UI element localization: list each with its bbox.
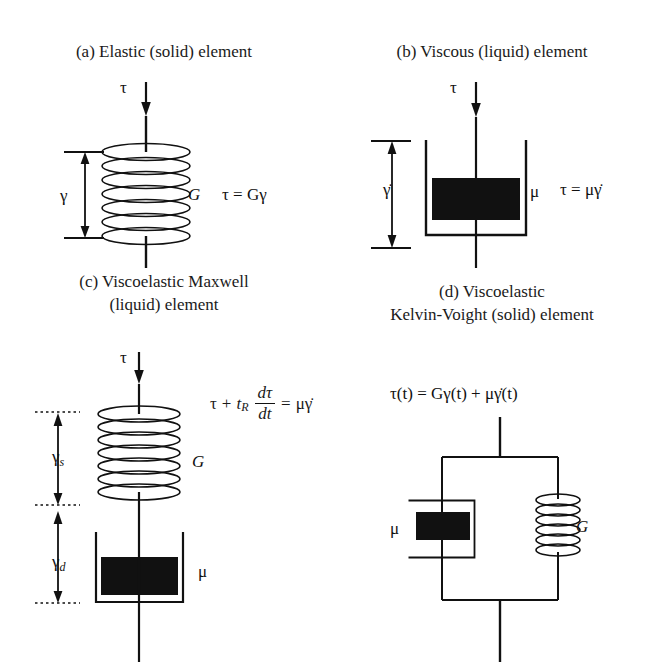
- dashpot-piston: [416, 512, 470, 540]
- stress-arrow-top: [141, 82, 151, 116]
- panel-c-drawing: [0, 262, 328, 668]
- stress-arrow-top: [134, 352, 144, 384]
- strain-rate-dimension-arrow: [371, 141, 411, 248]
- panel-b-drawing: [328, 0, 656, 270]
- strain-dimension-arrow: [64, 152, 104, 238]
- spring-coil: [536, 494, 580, 556]
- panel-d-drawing: [328, 262, 656, 668]
- panel-c-maxwell: (c) Viscoelastic Maxwell (liquid) elemen…: [0, 262, 328, 668]
- rheology-elements-figure: (a) Elastic (solid) element τ γ G τ = Gγ: [0, 0, 656, 668]
- spring-strain-dimension-arrow: [54, 413, 63, 505]
- panel-a-drawing: [0, 0, 328, 270]
- dashpot-strain-dimension-arrow: [54, 511, 63, 603]
- stress-arrow-top: [471, 82, 481, 117]
- panel-a-elastic: (a) Elastic (solid) element τ γ G τ = Gγ: [0, 0, 328, 270]
- dashpot-piston: [432, 178, 520, 220]
- spring-coil: [98, 406, 180, 500]
- panel-b-viscous: (b) Viscous (liquid) element τ γ̇ μ τ = …: [328, 0, 656, 270]
- spring-coil: [102, 144, 190, 245]
- panel-d-kelvin-voigt: (d) Viscoelastic Kelvin-Voight (solid) e…: [328, 262, 656, 668]
